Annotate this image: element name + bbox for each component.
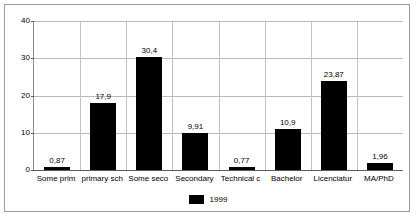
y-tick-label: 20 (21, 92, 30, 100)
bar[interactable] (136, 57, 162, 170)
bar[interactable] (275, 129, 301, 170)
legend-label-1999: 1999 (210, 196, 228, 204)
category-label: Some prim (33, 173, 79, 184)
bar-slot: 0,77 (219, 21, 265, 170)
bar[interactable] (90, 103, 116, 170)
bar[interactable] (367, 163, 393, 170)
bar-slot: 1,96 (357, 21, 403, 170)
bar-slot: 23,87 (311, 21, 357, 170)
category-axis-labels: Some primprimary schSome secoSecondaryTe… (33, 173, 403, 187)
category-label: Licenciatur (310, 173, 356, 184)
bar-value-label: 10,9 (280, 119, 296, 127)
bar[interactable] (229, 167, 255, 170)
category-label: Secondary (171, 173, 217, 184)
category-label: primary sch (79, 173, 125, 184)
bar-value-label: 30,4 (142, 47, 158, 55)
bar-value-label: 0,87 (49, 157, 65, 165)
category-label: MA/PhD (356, 173, 402, 184)
y-tick-label: 30 (21, 54, 30, 62)
bar-slot: 30,4 (126, 21, 172, 170)
category-label: Bachelor (264, 173, 310, 184)
bar[interactable] (44, 167, 70, 170)
bar-slot: 9,91 (172, 21, 218, 170)
bar-slot: 10,9 (265, 21, 311, 170)
y-tick-label: 40 (21, 17, 30, 25)
bar-slot: 0,87 (34, 21, 80, 170)
bar-value-label: 0,77 (234, 157, 250, 165)
plot-area: 0102030400,8717,930,49,910,7710,923,871,… (33, 21, 403, 171)
chart-frame: 0102030400,8717,930,49,910,7710,923,871,… (4, 4, 410, 212)
y-tick-label: 10 (21, 129, 30, 137)
category-label: Some seco (125, 173, 171, 184)
bar[interactable] (321, 81, 347, 170)
bar-value-label: 1,96 (372, 153, 388, 161)
category-label: Technical c (218, 173, 264, 184)
bar[interactable] (182, 133, 208, 170)
bar-value-label: 23,87 (324, 71, 344, 79)
chart-legend: 1999 (5, 195, 411, 204)
bar-value-label: 9,91 (188, 123, 204, 131)
legend-swatch-1999 (189, 195, 204, 204)
y-tick-label: 0 (26, 166, 30, 174)
bar-value-label: 17,9 (95, 93, 111, 101)
y-tick-mark (31, 170, 34, 171)
bar-slot: 17,9 (80, 21, 126, 170)
